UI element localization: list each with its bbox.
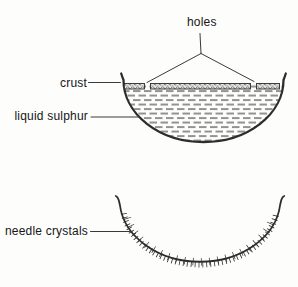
needle-crystal-ticks bbox=[124, 214, 276, 265]
holes-pointer-left bbox=[147, 54, 201, 83]
diagram-svg bbox=[0, 0, 298, 287]
dish-outline bbox=[116, 196, 284, 262]
evaporating-dish-top bbox=[121, 74, 286, 143]
liquid-sulphur-fill bbox=[124, 84, 284, 142]
crust-segment-middle bbox=[151, 84, 251, 90]
evaporating-dish-bottom bbox=[116, 196, 284, 264]
label-crust: crust bbox=[0, 77, 87, 89]
label-holes: holes bbox=[187, 16, 217, 28]
label-liquid-sulphur: liquid sulphur bbox=[0, 110, 88, 122]
holes-pointer-stem bbox=[200, 34, 201, 54]
label-needle-crystals: needle crystals bbox=[0, 225, 88, 237]
crust-segment-left bbox=[124, 84, 144, 90]
needle-crystal-ticks-long bbox=[128, 218, 273, 262]
crust-segment-right bbox=[257, 84, 280, 90]
figure-canvas: holes crust liquid sulphur needle crysta… bbox=[0, 0, 298, 287]
holes-pointer-right bbox=[201, 54, 254, 82]
